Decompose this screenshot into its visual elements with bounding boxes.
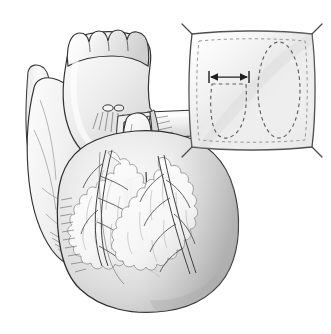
illustration-canvas: Surgical illustration of heart with tran… — [0, 0, 331, 334]
surgical-illustration-figure — [0, 0, 331, 334]
patch-template-inset — [182, 24, 322, 157]
